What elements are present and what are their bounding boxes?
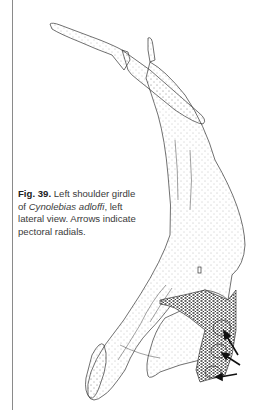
foramen xyxy=(198,267,201,273)
spine-process xyxy=(148,38,155,62)
posttemporal-bone xyxy=(50,23,130,70)
shoulder-girdle-illustration xyxy=(0,0,263,412)
